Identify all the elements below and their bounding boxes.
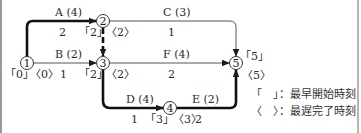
node-2-earliest-start: 「2」 — [79, 27, 108, 39]
legend-latest-finish-text: ：最遅完了時刻 — [279, 105, 356, 118]
activity-b-label: B (2) — [55, 49, 82, 61]
node-5-earliest-start: 「5」 — [240, 51, 269, 63]
legend-latest-finish-symbol: 〈 〉 — [251, 105, 279, 118]
node-3-earliest-start: 「2」 — [79, 69, 108, 81]
node-1-latest-finish: 〈0〉 — [30, 69, 59, 81]
activity-c-value: 1 — [168, 27, 175, 39]
legend-earliest-start-text: ：最早開始時刻 — [279, 88, 356, 101]
svg-text:5: 5 — [233, 57, 240, 70]
node-2-latest-finish: 〈2〉 — [106, 27, 135, 39]
activity-a-label: A (4) — [55, 7, 82, 19]
activity-e-label: E (2) — [192, 94, 219, 106]
activity-d-value: 1 — [131, 114, 138, 126]
legend-earliest-start: 「 」：最早開始時刻 — [251, 89, 356, 101]
activity-a-value: 2 — [59, 27, 66, 39]
legend-earliest-start-symbol: 「 」 — [251, 88, 279, 101]
activity-b-value: 1 — [60, 69, 67, 81]
node-3-latest-finish: 〈2〉 — [106, 69, 135, 81]
activity-d-label: D (4) — [126, 94, 154, 106]
node-4-earliest-start: 「3」 — [145, 114, 174, 126]
node-4-latest-finish: 〈3〉 — [173, 114, 202, 126]
node-5-latest-finish: 〈5〉 — [242, 70, 271, 82]
activity-c-label: C (3) — [163, 7, 191, 19]
activity-f-label: F (4) — [163, 49, 190, 61]
legend-latest-finish: 〈 〉：最遅完了時刻 — [251, 106, 356, 118]
activity-f-value: 2 — [168, 69, 175, 81]
